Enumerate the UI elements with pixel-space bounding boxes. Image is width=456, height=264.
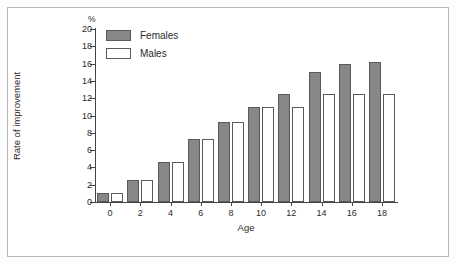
- legend-item-females: Females: [106, 30, 178, 41]
- y-axis-tick-label: 14: [82, 76, 92, 86]
- y-axis-tick-label: 12: [82, 93, 92, 103]
- x-axis-tick-label: 16: [347, 208, 357, 218]
- y-axis-unit-label: %: [88, 14, 96, 24]
- x-axis-tick-mark: [352, 202, 353, 206]
- y-axis-title: Rate of improvement: [11, 72, 22, 160]
- x-axis-tick-mark: [110, 202, 111, 206]
- x-axis-title: Age: [238, 222, 255, 233]
- y-axis-tick-label: 20: [82, 24, 92, 34]
- x-axis-tick-label: 10: [256, 208, 266, 218]
- x-axis-tick-label: 18: [377, 208, 387, 218]
- y-axis-tick-label: 18: [82, 41, 92, 51]
- x-axis-tick-mark: [291, 202, 292, 206]
- legend-swatch-males-icon: [106, 48, 131, 59]
- y-axis-tick-label: 2: [87, 180, 92, 190]
- chart-legend: Females Males: [106, 30, 178, 66]
- x-axis-tick-mark: [171, 202, 172, 206]
- x-axis-tick-mark: [261, 202, 262, 206]
- x-axis-tick-mark: [231, 202, 232, 206]
- legend-item-males: Males: [106, 48, 178, 59]
- x-axis-tick-label: 14: [316, 208, 326, 218]
- y-axis-tick-label: 8: [87, 128, 92, 138]
- x-axis-tick-label: 0: [108, 208, 113, 218]
- x-axis-tick-mark: [140, 202, 141, 206]
- x-axis-tick-mark: [322, 202, 323, 206]
- x-axis-tick-label: 8: [228, 208, 233, 218]
- bar-females-age-18: [369, 62, 381, 202]
- y-axis-tick-label: 16: [82, 59, 92, 69]
- legend-label-females: Females: [140, 30, 178, 41]
- figure-container: % Rate of improvement Age 02468101214161…: [0, 0, 456, 264]
- x-axis-tick-mark: [201, 202, 202, 206]
- y-axis-tick-label: 6: [87, 145, 92, 155]
- x-axis-tick-label: 12: [286, 208, 296, 218]
- y-axis-tick-label: 4: [87, 162, 92, 172]
- bar-males-age-18: [383, 94, 395, 202]
- x-axis-tick-mark: [382, 202, 383, 206]
- x-axis-tick-label: 4: [168, 208, 173, 218]
- x-axis-tick-label: 6: [198, 208, 203, 218]
- x-axis-tick-label: 2: [138, 208, 143, 218]
- y-axis-tick-label: 10: [82, 111, 92, 121]
- y-axis-tick-label: 0: [87, 197, 92, 207]
- legend-swatch-females-icon: [106, 30, 131, 41]
- legend-label-males: Males: [140, 48, 167, 59]
